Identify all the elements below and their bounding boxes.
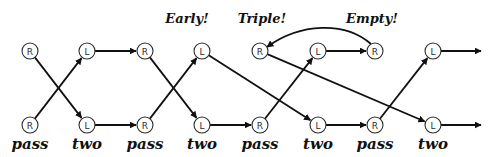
- step-label-two: two: [418, 135, 448, 153]
- step-label-two: two: [303, 135, 333, 153]
- annotation-triple: Triple!: [238, 11, 287, 26]
- edge-arrow: [267, 54, 424, 121]
- node-letter: L: [315, 121, 320, 131]
- node-bottom-l-3: L: [194, 117, 210, 133]
- labels-layer: Early!Triple!Empty!passtwopasstwopasstwo…: [11, 11, 447, 153]
- node-top-l-7: L: [425, 43, 441, 59]
- node-letter: R: [372, 121, 378, 131]
- annotation-early: Early!: [164, 11, 208, 26]
- edge-arrow: [265, 58, 313, 119]
- node-top-r-0: R: [22, 43, 38, 59]
- node-bottom-l-5: L: [310, 117, 326, 133]
- node-bottom-r-2: R: [137, 117, 153, 133]
- node-letter: L: [430, 121, 435, 131]
- node-letter: L: [430, 47, 435, 57]
- shuffle-diagram: RLRLRLRLRLRLRLRL Early!Triple!Empty!pass…: [0, 0, 501, 157]
- node-letter: R: [27, 121, 33, 131]
- step-label-pass: pass: [126, 135, 164, 153]
- step-label-pass: pass: [11, 135, 49, 153]
- node-letter: L: [199, 47, 204, 57]
- node-bottom-r-4: R: [252, 117, 268, 133]
- step-label-pass: pass: [356, 135, 394, 153]
- edges-layer: [35, 28, 481, 125]
- node-letter: R: [372, 47, 378, 57]
- node-letter: L: [84, 47, 89, 57]
- node-top-l-5: L: [310, 43, 326, 59]
- node-bottom-r-0: R: [22, 117, 38, 133]
- step-label-two: two: [72, 135, 102, 153]
- node-top-l-3: L: [194, 43, 210, 59]
- node-letter: R: [142, 47, 148, 57]
- node-letter: R: [257, 47, 263, 57]
- node-letter: L: [315, 47, 320, 57]
- annotation-empty: Empty!: [345, 11, 398, 26]
- step-label-two: two: [187, 135, 217, 153]
- node-bottom-r-6: R: [367, 117, 383, 133]
- step-label-pass: pass: [241, 135, 279, 153]
- node-letter: L: [84, 121, 89, 131]
- nodes-layer: RLRLRLRLRLRLRLRL: [22, 43, 441, 133]
- node-letter: R: [142, 121, 148, 131]
- node-letter: R: [257, 121, 263, 131]
- node-top-r-2: R: [137, 43, 153, 59]
- diagram-canvas: RLRLRLRLRLRLRLRL Early!Triple!Empty!pass…: [0, 0, 501, 157]
- edge-arrow: [209, 55, 311, 120]
- node-top-r-4: R: [252, 43, 268, 59]
- node-letter: R: [27, 47, 33, 57]
- edge-arrow: [380, 58, 428, 119]
- node-top-l-1: L: [79, 43, 95, 59]
- node-top-r-6: R: [367, 43, 383, 59]
- node-bottom-l-1: L: [79, 117, 95, 133]
- node-bottom-l-7: L: [425, 117, 441, 133]
- node-letter: L: [199, 121, 204, 131]
